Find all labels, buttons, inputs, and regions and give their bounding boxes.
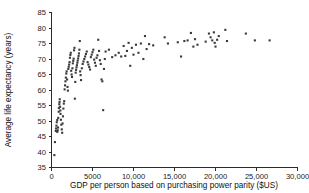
data-point: [73, 47, 75, 49]
data-point: [66, 78, 68, 80]
data-point: [187, 39, 189, 41]
data-point: [214, 46, 216, 48]
y-tick-label: 60: [38, 86, 46, 95]
data-point: [82, 60, 84, 62]
data-point: [63, 100, 65, 102]
data-point: [53, 154, 55, 156]
x-tick-label: 25,000: [245, 172, 268, 181]
data-point: [124, 55, 126, 57]
data-point: [94, 62, 96, 64]
data-point: [146, 48, 148, 50]
data-point: [71, 76, 73, 78]
data-point: [56, 119, 58, 121]
y-tick-label: 35: [38, 163, 46, 172]
data-point: [211, 39, 213, 41]
y-tick-label: 75: [38, 39, 46, 48]
data-point: [97, 39, 99, 41]
data-point: [82, 63, 84, 65]
data-point: [104, 58, 106, 60]
data-point: [59, 98, 61, 100]
y-tick-label: 45: [38, 132, 46, 141]
data-point: [77, 57, 79, 59]
data-point: [69, 57, 71, 59]
data-point: [194, 38, 196, 40]
y-axis-ticks: 3540455055606570758085: [38, 8, 52, 172]
data-point: [67, 90, 69, 92]
data-point: [269, 39, 271, 41]
data-point: [74, 98, 76, 100]
x-axis-title: GDP per person based on purchasing power…: [70, 181, 278, 190]
data-point: [73, 49, 75, 51]
data-point: [164, 36, 166, 38]
data-point: [69, 54, 71, 56]
data-point: [92, 49, 94, 51]
data-point: [70, 52, 72, 54]
data-point: [180, 55, 182, 57]
data-point: [80, 79, 82, 81]
data-point: [120, 55, 122, 57]
data-point: [77, 60, 79, 62]
data-point: [78, 49, 80, 51]
data-point: [62, 108, 64, 110]
x-tick-label: 20,000: [204, 172, 227, 181]
data-point: [210, 36, 212, 38]
scatter-chart: 3540455055606570758085 0500010,00015,000…: [0, 0, 309, 193]
data-point: [79, 70, 81, 72]
data-point: [65, 73, 67, 75]
data-point: [71, 73, 73, 75]
data-point: [254, 39, 256, 41]
data-point: [74, 81, 76, 83]
data-point: [73, 58, 75, 60]
data-point: [64, 84, 66, 86]
data-point: [55, 127, 57, 129]
data-point: [78, 55, 80, 57]
data-point: [142, 58, 144, 60]
data-point: [216, 39, 218, 41]
data-points-group: [53, 29, 270, 156]
data-point: [68, 61, 70, 63]
x-tick-label: 0: [49, 172, 53, 181]
y-tick-label: 70: [38, 55, 46, 64]
data-point: [66, 70, 68, 72]
data-point: [100, 63, 102, 65]
data-point: [55, 125, 57, 127]
data-point: [75, 69, 77, 71]
data-point: [61, 128, 63, 130]
data-point: [57, 126, 59, 128]
data-point: [148, 43, 150, 45]
data-point: [167, 42, 169, 44]
data-point: [59, 113, 61, 115]
data-point: [132, 54, 134, 56]
data-point: [91, 54, 93, 56]
data-point: [96, 54, 98, 56]
data-point: [59, 106, 61, 108]
data-point: [56, 121, 58, 123]
data-point: [213, 31, 215, 33]
data-point: [190, 32, 192, 34]
data-point: [72, 60, 74, 62]
plot-canvas: 3540455055606570758085 0500010,00015,000…: [0, 0, 309, 193]
data-point: [128, 42, 130, 44]
data-point: [100, 78, 102, 80]
data-point: [67, 68, 69, 70]
data-point: [208, 33, 210, 35]
data-point: [84, 55, 86, 57]
data-point: [245, 33, 247, 35]
data-point: [90, 56, 92, 58]
x-tick-label: 5000: [84, 172, 101, 181]
data-point: [177, 41, 179, 43]
x-tick-label: 10,000: [122, 172, 145, 181]
data-point: [205, 41, 207, 43]
data-point: [71, 67, 73, 69]
data-point: [58, 103, 60, 105]
data-point: [95, 65, 97, 67]
data-point: [114, 54, 116, 56]
data-point: [224, 29, 226, 31]
y-tick-label: 40: [38, 148, 46, 157]
data-point: [81, 67, 83, 69]
y-tick-label: 50: [38, 117, 46, 126]
data-point: [152, 44, 154, 46]
data-point: [214, 42, 216, 44]
data-point: [64, 88, 66, 90]
data-point: [105, 51, 107, 53]
